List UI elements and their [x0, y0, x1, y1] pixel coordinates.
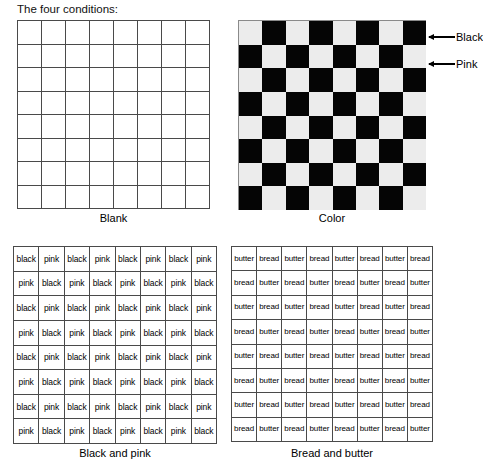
checker-cell-black	[309, 68, 332, 92]
blank-cell	[138, 92, 162, 116]
word-cell-bread: bread	[358, 296, 383, 320]
word-cell-butter: butter	[333, 247, 358, 271]
word-cell-black: black	[116, 296, 141, 321]
blank-cell	[162, 45, 186, 69]
word-cell-black: black	[166, 395, 191, 420]
checker-cell-black	[239, 45, 262, 69]
checker-cell-pink	[333, 68, 356, 92]
blank-cell	[66, 115, 90, 139]
word-cell-butter: butter	[257, 418, 282, 442]
blank-cell	[186, 45, 210, 69]
word-cell-bread: bread	[333, 369, 358, 393]
word-cell-black: black	[141, 419, 166, 444]
word-cell-butter: butter	[257, 369, 282, 393]
caption-blank: Blank	[17, 212, 210, 225]
checker-cell-black	[286, 45, 309, 69]
blank-cell	[66, 186, 90, 210]
checker-cell-black	[262, 68, 285, 92]
checker-cell-pink	[333, 21, 356, 45]
checker-cell-pink	[239, 21, 262, 45]
word-cell-bread: bread	[333, 271, 358, 295]
word-cell-butter: butter	[307, 320, 332, 344]
checker-cell-black	[379, 139, 402, 163]
checker-cell-pink	[403, 92, 426, 116]
checker-cell-pink	[309, 45, 332, 69]
blank-cell	[18, 139, 42, 163]
checker-cell-pink	[333, 116, 356, 140]
checker-cell-pink	[333, 163, 356, 187]
word-cell-butter: butter	[333, 393, 358, 417]
word-cell-pink: pink	[166, 419, 191, 444]
blank-cell	[66, 21, 90, 45]
blank-cell	[42, 115, 66, 139]
blank-cell	[138, 162, 162, 186]
word-cell-pink: pink	[90, 346, 115, 371]
word-cell-black: black	[116, 247, 141, 272]
word-cell-black: black	[39, 419, 64, 444]
checker-cell-black	[379, 92, 402, 116]
word-cell-butter: butter	[358, 418, 383, 442]
blank-cell	[66, 92, 90, 116]
blank-cell	[162, 162, 186, 186]
blank-cell	[138, 139, 162, 163]
checker-cell-black	[356, 21, 379, 45]
checker-cell-pink	[356, 186, 379, 210]
word-cell-bread: bread	[358, 345, 383, 369]
word-cell-butter: butter	[383, 345, 408, 369]
checker-cell-black	[403, 116, 426, 140]
word-cell-bread: bread	[232, 369, 257, 393]
blank-cell	[18, 186, 42, 210]
checker-cell-black	[403, 21, 426, 45]
word-cell-butter: butter	[383, 296, 408, 320]
checker-cell-pink	[379, 68, 402, 92]
black-and-pink-condition-grid: blackpinkblackpinkblackpinkblackpinkpink…	[13, 246, 217, 444]
blank-cell	[42, 92, 66, 116]
word-cell-pink: pink	[116, 370, 141, 395]
word-cell-black: black	[192, 370, 217, 395]
blank-cell	[186, 68, 210, 92]
word-cell-pink: pink	[39, 395, 64, 420]
blank-cell	[138, 186, 162, 210]
checker-cell-black	[286, 186, 309, 210]
checker-cell-black	[356, 163, 379, 187]
word-cell-bread: bread	[307, 345, 332, 369]
word-cell-pink: pink	[65, 370, 90, 395]
blank-cell	[186, 139, 210, 163]
checker-cell-pink	[379, 163, 402, 187]
word-cell-bread: bread	[333, 320, 358, 344]
word-cell-butter: butter	[408, 418, 433, 442]
checker-cell-pink	[239, 163, 262, 187]
word-cell-black: black	[192, 321, 217, 346]
checker-cell-pink	[286, 68, 309, 92]
word-cell-butter: butter	[257, 271, 282, 295]
checker-cell-black	[333, 92, 356, 116]
bread-and-butter-condition-grid: butterbreadbutterbreadbutterbreadbutterb…	[231, 246, 433, 442]
word-cell-butter: butter	[282, 393, 307, 417]
checker-cell-pink	[403, 45, 426, 69]
blank-cell	[90, 186, 114, 210]
blank-cell	[114, 45, 138, 69]
word-cell-pink: pink	[166, 272, 191, 297]
word-cell-pink: pink	[90, 395, 115, 420]
blank-cell	[42, 162, 66, 186]
word-cell-bread: bread	[257, 345, 282, 369]
checker-cell-black	[379, 186, 402, 210]
word-cell-black: black	[14, 395, 39, 420]
blank-cell	[66, 139, 90, 163]
caption-black-and-pink: Black and pink	[13, 447, 217, 460]
word-cell-bread: bread	[333, 418, 358, 442]
checker-cell-black	[403, 68, 426, 92]
checker-cell-black	[262, 116, 285, 140]
blank-cell	[114, 21, 138, 45]
checker-cell-black	[333, 139, 356, 163]
word-cell-bread: bread	[307, 296, 332, 320]
annotation-black: Black	[429, 31, 483, 43]
blank-cell	[90, 139, 114, 163]
word-cell-pink: pink	[39, 247, 64, 272]
word-cell-pink: pink	[116, 321, 141, 346]
blank-cell	[66, 162, 90, 186]
checker-cell-black	[239, 139, 262, 163]
word-cell-pink: pink	[90, 247, 115, 272]
word-cell-bread: bread	[383, 271, 408, 295]
word-cell-black: black	[14, 247, 39, 272]
